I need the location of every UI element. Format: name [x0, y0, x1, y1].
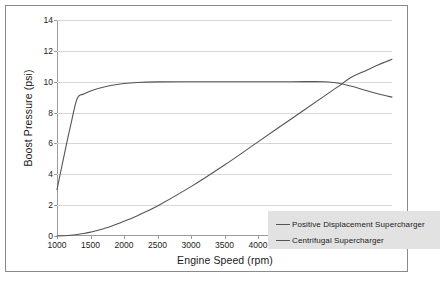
x-tick-label: 3500 — [215, 240, 234, 250]
legend-swatch-icon — [276, 224, 290, 225]
legend-swatch-icon — [276, 240, 290, 241]
x-tick-label: 3000 — [182, 240, 201, 250]
x-tick-mark — [158, 236, 159, 239]
legend-item-positive-displacement: Positive Displacement Supercharger — [276, 218, 425, 230]
x-tick-label: 1000 — [48, 240, 67, 250]
legend-item-centrifugal: Centrifugal Supercharger — [276, 234, 384, 246]
x-tick-mark — [91, 236, 92, 239]
x-tick-mark — [225, 236, 226, 239]
y-tick-label: 6 — [48, 138, 53, 148]
y-tick-label: 12 — [44, 46, 53, 56]
x-tick-mark — [191, 236, 192, 239]
x-tick-mark — [124, 236, 125, 239]
line-positive-displacement-supercharger — [57, 82, 392, 190]
y-tick-label: 2 — [48, 200, 53, 210]
legend-label: Centrifugal Supercharger — [292, 236, 384, 245]
series-lines — [57, 20, 392, 236]
x-tick-label: 1500 — [81, 240, 100, 250]
y-tick-label: 4 — [48, 169, 53, 179]
x-tick-label: 4000 — [249, 240, 268, 250]
x-tick-label: 2000 — [115, 240, 134, 250]
y-tick-label: 14 — [44, 15, 53, 25]
legend: Positive Displacement Supercharger Centr… — [268, 211, 440, 249]
x-tick-mark — [258, 236, 259, 239]
plot-area: 02468101214 1000150020002500300035004000… — [57, 20, 392, 236]
x-tick-label: 2500 — [148, 240, 167, 250]
x-axis-title: Engine Speed (rpm) — [57, 254, 393, 266]
y-axis-title: Boost Pressure (psi) — [22, 38, 34, 198]
y-tick-label: 10 — [44, 77, 53, 87]
legend-label: Positive Displacement Supercharger — [292, 220, 425, 229]
y-tick-label: 8 — [48, 108, 53, 118]
